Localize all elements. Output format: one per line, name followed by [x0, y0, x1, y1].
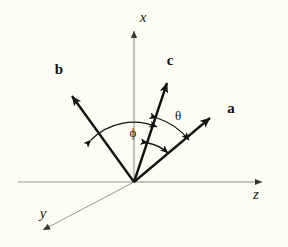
vector-label-a: a [227, 100, 235, 116]
angle-label-theta: θ [175, 108, 181, 123]
axis-label-y: y [38, 205, 47, 221]
vector-b [72, 96, 134, 182]
vector-label-c: c [167, 52, 174, 68]
angle-arc-theta [157, 118, 189, 140]
diagram-canvas: x z y b c a ϕ θ [0, 0, 288, 247]
axis-label-z: z [252, 186, 259, 202]
angle-arc-theta-inner [148, 143, 168, 153]
vectors-group [72, 83, 210, 182]
axis-y-line [43, 182, 134, 230]
axis-label-x: x [139, 9, 147, 25]
vector-label-b: b [55, 61, 63, 77]
angle-label-phi: ϕ [130, 125, 137, 140]
vector-diagram-figure: x z y b c a ϕ θ [0, 0, 288, 247]
